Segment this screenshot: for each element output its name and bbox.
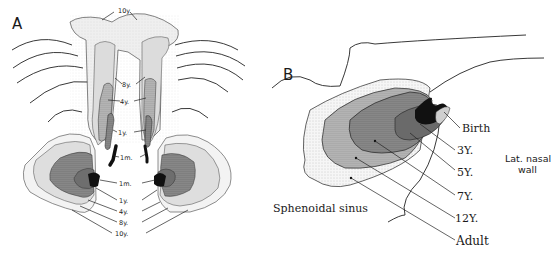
panel-a: A <box>12 7 245 238</box>
right-orbit-arcs <box>172 41 245 118</box>
label-maxillary-8y: 8y. <box>119 219 128 227</box>
label-frontal-8y: 8y. <box>122 81 131 89</box>
panel-b: B Birth 3Y. 5Y. <box>272 35 551 248</box>
frontal-sinus-1m-left <box>110 146 116 165</box>
label-5y: 5Y. <box>457 166 473 179</box>
label-maxillary-4y: 4y. <box>119 208 128 216</box>
label-adult: Adult <box>455 234 489 248</box>
label-7y: 7Y. <box>457 190 473 203</box>
label-frontal-1y: 1y. <box>118 129 127 137</box>
label-3y: 3Y. <box>457 144 473 157</box>
label-birth: Birth <box>462 122 490 135</box>
label-sphenoidal-sinus: Sphenoidal sinus <box>273 202 368 215</box>
label-maxillary-1y: 1y. <box>119 197 128 205</box>
panel-b-label: B <box>283 66 293 84</box>
label-12y: 12Y. <box>455 212 478 225</box>
label-lat-nasal: Lat. nasal <box>505 153 551 164</box>
label-wall: wall <box>518 164 537 175</box>
label-frontal-10y: 10y <box>118 7 130 15</box>
label-frontal-4y: 4y. <box>120 98 129 106</box>
label-maxillary-1m: 1m. <box>119 180 132 188</box>
maxillary-sinus-right <box>154 135 231 212</box>
panel-a-label: A <box>12 15 23 33</box>
lateral-nasal-wall-line <box>430 58 544 92</box>
sinus-growth-diagram: A <box>0 0 558 257</box>
label-frontal-1m: 1m. <box>120 154 133 162</box>
maxillary-sinus-left <box>23 134 100 213</box>
label-maxillary-10y: 10y. <box>115 230 128 238</box>
